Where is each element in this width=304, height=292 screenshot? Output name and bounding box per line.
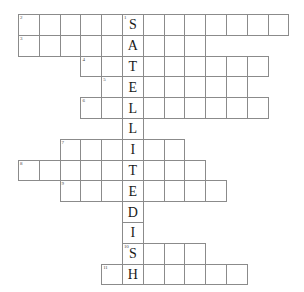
crossword-cell[interactable]: T — [122, 160, 144, 182]
crossword-cell[interactable] — [184, 264, 206, 286]
crossword-cell[interactable] — [164, 14, 186, 36]
crossword-cell[interactable] — [143, 35, 165, 57]
crossword-cell[interactable] — [205, 180, 227, 202]
crossword-cell[interactable] — [101, 35, 123, 57]
cell-letter: T — [123, 161, 143, 181]
cell-letter: D — [123, 202, 143, 222]
crossword-cell[interactable]: 7 — [60, 139, 82, 161]
crossword-cell[interactable] — [39, 14, 61, 36]
clue-number: 11 — [103, 265, 107, 271]
crossword-cell[interactable] — [80, 35, 102, 57]
crossword-cell[interactable] — [164, 264, 186, 286]
crossword-cell[interactable] — [101, 56, 123, 78]
clue-number: 7 — [62, 140, 64, 146]
clue-number: 5 — [103, 77, 105, 83]
crossword-cell[interactable]: 6 — [80, 97, 102, 119]
crossword-cell[interactable] — [80, 139, 102, 161]
crossword-cell[interactable] — [226, 264, 248, 286]
crossword-cell[interactable] — [205, 76, 227, 98]
cell-letter: S — [123, 15, 143, 35]
crossword-cell[interactable] — [184, 35, 206, 57]
crossword-cell[interactable] — [247, 97, 269, 119]
crossword-cell[interactable] — [164, 180, 186, 202]
crossword-cell[interactable]: 1S — [122, 14, 144, 36]
crossword-cell[interactable] — [226, 97, 248, 119]
crossword-cell[interactable] — [164, 97, 186, 119]
crossword-cell[interactable]: 5 — [101, 76, 123, 98]
clue-number: 2 — [20, 15, 22, 21]
crossword-cell[interactable] — [184, 56, 206, 78]
crossword-cell[interactable] — [205, 56, 227, 78]
cell-letter: I — [123, 140, 143, 160]
clue-number: 4 — [82, 57, 84, 63]
crossword-cell[interactable] — [143, 243, 165, 265]
cell-letter: H — [123, 265, 143, 285]
crossword-cell[interactable] — [143, 139, 165, 161]
crossword-cell[interactable] — [101, 14, 123, 36]
crossword-cell[interactable]: T — [122, 56, 144, 78]
crossword-cell[interactable] — [184, 14, 206, 36]
crossword-cell[interactable] — [164, 76, 186, 98]
crossword-cell[interactable] — [184, 76, 206, 98]
crossword-cell[interactable]: L — [122, 118, 144, 140]
crossword-cell[interactable]: I — [122, 139, 144, 161]
crossword-cell[interactable] — [60, 14, 82, 36]
crossword-cell[interactable] — [164, 56, 186, 78]
crossword-cell[interactable] — [164, 160, 186, 182]
crossword-cell[interactable]: A — [122, 35, 144, 57]
crossword-cell[interactable] — [80, 14, 102, 36]
crossword-cell[interactable] — [184, 243, 206, 265]
crossword-cell[interactable]: 8 — [18, 160, 40, 182]
crossword-cell[interactable]: 4 — [80, 56, 102, 78]
crossword-cell[interactable]: H — [122, 264, 144, 286]
crossword-cell[interactable] — [184, 160, 206, 182]
crossword-cell[interactable] — [39, 35, 61, 57]
crossword-cell[interactable]: L — [122, 97, 144, 119]
crossword-cell[interactable] — [101, 97, 123, 119]
crossword-cell[interactable]: D — [122, 201, 144, 223]
clue-number: 3 — [20, 36, 22, 42]
crossword-cell[interactable] — [268, 14, 290, 36]
crossword-cell[interactable]: E — [122, 180, 144, 202]
cell-letter: I — [123, 223, 143, 243]
crossword-cell[interactable] — [226, 14, 248, 36]
crossword-cell[interactable] — [39, 160, 61, 182]
cell-letter: E — [123, 181, 143, 201]
crossword-cell[interactable] — [101, 139, 123, 161]
crossword-cell[interactable] — [101, 180, 123, 202]
crossword-cell[interactable] — [143, 56, 165, 78]
crossword-cell[interactable] — [247, 56, 269, 78]
crossword-cell[interactable] — [143, 97, 165, 119]
crossword-cell[interactable]: 11 — [101, 264, 123, 286]
crossword-cell[interactable] — [143, 76, 165, 98]
crossword-cell[interactable] — [226, 56, 248, 78]
crossword-cell[interactable] — [60, 160, 82, 182]
crossword-cell[interactable]: 3 — [18, 35, 40, 57]
crossword-cell[interactable] — [143, 160, 165, 182]
clue-number: 6 — [82, 98, 84, 104]
crossword-cell[interactable]: I — [122, 222, 144, 244]
cell-letter: L — [123, 119, 143, 139]
crossword-cell[interactable] — [164, 35, 186, 57]
crossword-cell[interactable]: E — [122, 76, 144, 98]
crossword-cell[interactable]: 9 — [60, 180, 82, 202]
crossword-cell[interactable] — [101, 160, 123, 182]
crossword-cell[interactable] — [226, 76, 248, 98]
crossword-cell[interactable] — [205, 97, 227, 119]
crossword-cell[interactable] — [184, 97, 206, 119]
crossword-cell[interactable] — [184, 180, 206, 202]
crossword-cell[interactable] — [143, 264, 165, 286]
crossword-cell[interactable]: 2 — [18, 14, 40, 36]
crossword-cell[interactable]: 10S — [122, 243, 144, 265]
crossword-cell[interactable] — [164, 139, 186, 161]
crossword-cell[interactable] — [205, 14, 227, 36]
crossword-cell[interactable] — [80, 160, 102, 182]
cell-letter: S — [123, 244, 143, 264]
crossword-cell[interactable] — [143, 180, 165, 202]
crossword-cell[interactable] — [60, 35, 82, 57]
crossword-cell[interactable] — [247, 14, 269, 36]
crossword-cell[interactable] — [143, 14, 165, 36]
crossword-cell[interactable] — [164, 243, 186, 265]
crossword-cell[interactable] — [80, 180, 102, 202]
crossword-cell[interactable] — [205, 264, 227, 286]
